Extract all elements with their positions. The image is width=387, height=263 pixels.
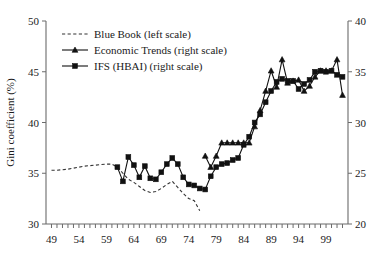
data-point-marker bbox=[263, 88, 269, 93]
data-point-marker bbox=[230, 158, 235, 163]
data-point-marker bbox=[213, 153, 219, 158]
data-point-marker bbox=[291, 78, 296, 83]
data-point-marker bbox=[219, 162, 224, 167]
data-point-marker bbox=[192, 183, 197, 188]
data-point-marker bbox=[208, 174, 213, 179]
data-point-marker bbox=[258, 112, 263, 117]
data-point-marker bbox=[252, 120, 257, 125]
x-tick-label: 69 bbox=[156, 233, 168, 245]
data-point-marker bbox=[334, 57, 340, 62]
series-path bbox=[205, 60, 342, 168]
data-point-marker bbox=[186, 182, 191, 187]
data-point-marker bbox=[340, 74, 345, 79]
data-point-marker bbox=[120, 179, 125, 184]
data-point-marker bbox=[131, 163, 136, 168]
legend-label: IFS (HBAI) (right scale) bbox=[94, 60, 203, 73]
data-point-marker bbox=[181, 175, 186, 180]
legend-group: Blue Book (left scale)Economic Trends (r… bbox=[62, 28, 227, 73]
data-point-marker bbox=[241, 142, 246, 147]
data-point-marker bbox=[159, 170, 164, 175]
data-point-marker bbox=[197, 186, 202, 191]
y-tick-label-right: 30 bbox=[355, 117, 367, 129]
y-tick-label-left: 30 bbox=[28, 218, 40, 230]
data-point-marker bbox=[153, 177, 158, 182]
data-point-marker bbox=[340, 92, 346, 97]
y-tick-label-right: 25 bbox=[355, 167, 367, 179]
y-tick-label-left: 50 bbox=[28, 15, 40, 27]
x-tick-label: 54 bbox=[73, 233, 85, 245]
y-tick-label-right: 35 bbox=[355, 66, 367, 78]
data-point-marker bbox=[313, 69, 318, 74]
legend-item: IFS (HBAI) (right scale) bbox=[62, 60, 203, 73]
data-point-marker bbox=[329, 68, 334, 73]
y-tick-label-right: 40 bbox=[355, 15, 367, 27]
y-tick-label-left: 45 bbox=[28, 66, 40, 78]
x-tick-label: 89 bbox=[266, 233, 278, 245]
data-point-marker bbox=[302, 82, 307, 87]
data-point-marker bbox=[318, 68, 323, 73]
data-point-marker bbox=[269, 89, 274, 94]
data-point-marker bbox=[137, 175, 142, 180]
data-point-marker bbox=[268, 68, 274, 73]
data-point-marker bbox=[175, 162, 180, 167]
data-point-marker bbox=[279, 57, 285, 62]
data-point-marker bbox=[208, 164, 214, 169]
data-point-marker bbox=[296, 87, 301, 92]
data-point-marker bbox=[115, 165, 120, 170]
data-point-marker bbox=[335, 72, 340, 77]
x-tick-label: 99 bbox=[321, 233, 333, 245]
legend-label: Blue Book (left scale) bbox=[94, 28, 191, 41]
data-point-marker bbox=[263, 100, 268, 105]
data-point-marker bbox=[247, 134, 252, 139]
x-tick-label: 79 bbox=[211, 233, 223, 245]
y-tick-label-right: 20 bbox=[355, 218, 367, 230]
data-point-marker bbox=[274, 80, 279, 85]
data-point-marker bbox=[126, 155, 131, 160]
data-point-marker bbox=[307, 77, 312, 82]
x-tick-label: 59 bbox=[101, 233, 113, 245]
x-tick-label: 49 bbox=[46, 233, 58, 245]
data-point-marker bbox=[202, 153, 208, 158]
data-point-marker bbox=[285, 78, 290, 83]
x-tick-label: 74 bbox=[183, 233, 195, 245]
chart-canvas: Blue Book (left scale)Economic Trends (r… bbox=[0, 0, 387, 263]
data-point-marker bbox=[236, 156, 241, 161]
data-point-marker bbox=[214, 165, 219, 170]
x-tick-label: 94 bbox=[293, 233, 305, 245]
y-tick-label-left: 40 bbox=[28, 117, 40, 129]
legend-label: Economic Trends (right scale) bbox=[94, 44, 227, 57]
y-axis-title-left: Gini coefficient (%) bbox=[4, 78, 17, 167]
data-point-marker bbox=[307, 83, 313, 88]
gini-coefficient-chart: Blue Book (left scale)Economic Trends (r… bbox=[0, 0, 387, 263]
data-point-marker bbox=[142, 164, 147, 169]
data-point-marker bbox=[164, 162, 169, 167]
data-point-marker bbox=[148, 176, 153, 181]
legend-square-icon bbox=[73, 64, 78, 69]
data-point-marker bbox=[296, 77, 302, 82]
x-tick-label: 64 bbox=[128, 233, 140, 245]
x-tick-label: 84 bbox=[238, 233, 250, 245]
series-group bbox=[51, 57, 345, 211]
legend-item: Blue Book (left scale) bbox=[62, 28, 191, 41]
data-point-marker bbox=[170, 156, 175, 161]
data-point-marker bbox=[280, 76, 285, 81]
data-point-marker bbox=[225, 161, 230, 166]
legend-item: Economic Trends (right scale) bbox=[62, 44, 227, 57]
y-tick-label-left: 35 bbox=[28, 167, 40, 179]
data-point-marker bbox=[203, 187, 208, 192]
data-point-marker bbox=[324, 69, 329, 74]
